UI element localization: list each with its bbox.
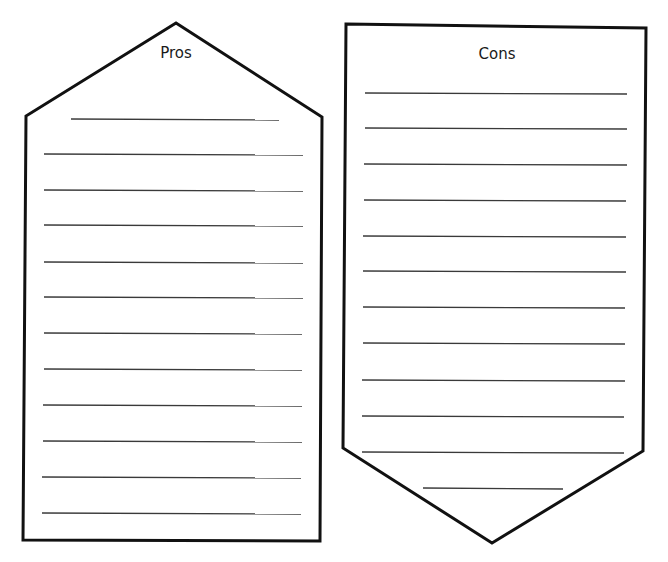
cons-outline: [343, 24, 646, 543]
pros-heading: Pros: [160, 44, 192, 62]
cons-heading: Cons: [479, 45, 516, 63]
pros-house-shape: [23, 23, 322, 541]
cons-pennant-shape: [343, 24, 646, 543]
worksheet-canvas: [0, 0, 668, 562]
pros-outline: [23, 23, 322, 541]
